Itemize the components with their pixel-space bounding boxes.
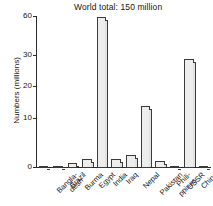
y-tick-10: 10: [36, 118, 37, 119]
bar-brazil: [53, 166, 63, 168]
y-tick-mark: [33, 167, 37, 168]
bar-egypt: [82, 159, 92, 168]
y-tick-label: 30: [23, 50, 32, 59]
bar-pakistan: [141, 106, 151, 168]
y-tick-0: 0: [36, 167, 37, 168]
bar-china: [184, 59, 194, 168]
x-tick-label-nepal: Nepal: [142, 171, 162, 191]
y-tick-60: 60: [36, 16, 37, 17]
bar-ussr: [170, 166, 180, 168]
bar-italy: [199, 166, 209, 168]
bar-bangla-desh: [39, 166, 49, 168]
y-tick-label: 10: [23, 113, 32, 122]
y-tick-mark: [33, 86, 37, 87]
bar-india: [97, 17, 107, 168]
bar-chart-figure: World total: 150 million Numbers (millio…: [0, 0, 213, 206]
y-tick-label: 60: [23, 11, 32, 20]
y-axis-line: [36, 16, 37, 168]
y-tick-20: 20: [36, 86, 37, 87]
y-tick-mark: [33, 16, 37, 17]
bar-phili-ppines: [155, 161, 165, 168]
bar-burma: [68, 163, 78, 168]
y-tick-label: 20: [23, 81, 32, 90]
y-tick-mark: [33, 118, 37, 119]
y-axis-label: Numbers (millions): [12, 31, 21, 151]
y-tick-mark: [33, 55, 37, 56]
plot-area: 010203060: [36, 12, 211, 168]
bar-iraq: [111, 159, 121, 168]
y-tick-30: 30: [36, 55, 37, 56]
y-tick-label: 0: [28, 162, 32, 171]
x-tick-label-iraq: Iraq: [125, 171, 140, 186]
bar-nepal: [126, 155, 136, 168]
chart-title: World total: 150 million: [74, 2, 162, 12]
